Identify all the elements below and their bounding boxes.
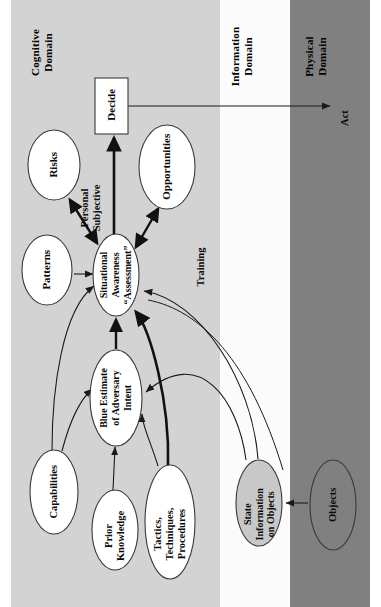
node-opportunities[interactable] [139,125,195,209]
edge-capabilities-to-blue-estimate [62,389,92,451]
node-decide[interactable] [95,78,128,134]
node-state-information-on-objects[interactable] [236,460,282,546]
node-prior-knowledge[interactable] [92,490,138,570]
node-blue-estimate[interactable] [90,350,142,446]
edge-capabilities-to-sa [52,286,94,450]
edge-sa-risks-bidirectional [70,200,97,243]
diagram-graphics [0,0,381,607]
node-situational-awareness[interactable] [93,234,139,316]
node-patterns[interactable] [22,235,72,305]
edge-sa-opportunities-bidirectional [136,209,158,247]
node-risks[interactable] [28,130,80,200]
node-objects[interactable] [310,460,356,550]
node-ttp[interactable] [145,465,195,579]
edge-ttp-to-blue-estimate [142,414,158,466]
edge-prior-knowledge-to-blue-estimate [113,447,115,490]
node-capabilities[interactable] [30,450,78,534]
diagram-canvas: Cognitive Domain Information Domain Phys… [0,0,381,607]
